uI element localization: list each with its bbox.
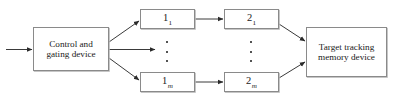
node-stage-2-channel-m: 2m	[224, 72, 279, 92]
node-stage-1-channel-1: 11	[140, 9, 195, 29]
node-control-gating-device: Control andgating device	[33, 27, 109, 71]
node-target-tracking-memory-device-label: Target trackingmemory device	[318, 42, 375, 63]
node-stage-1-channel-m-label: 1m	[162, 75, 173, 89]
connector-control-to-stage-1-channel-1	[109, 21, 139, 42]
node-stage-1-channel-1-label: 11	[163, 12, 172, 26]
ellipsis-dot	[166, 41, 168, 43]
connector-stage-2-channel-m-to-memory	[279, 62, 305, 78]
node-stage-2-channel-m-label: 2m	[246, 75, 257, 89]
node-stage-1-channel-m: 1m	[140, 72, 195, 92]
ellipsis-dot	[166, 60, 168, 62]
connector-stage-2-channel-1-to-memory	[279, 24, 305, 41]
node-stage-2-channel-1-label: 21	[247, 12, 256, 26]
ellipsis-dot	[250, 41, 252, 43]
node-stage-2-channel-1: 21	[224, 9, 279, 29]
block-diagram: Control andgating device 11 1m 21 2m Tar…	[0, 0, 395, 104]
ellipsis-dot	[250, 51, 252, 53]
ellipsis-stage-2	[247, 41, 255, 62]
ellipsis-dot	[250, 60, 252, 62]
ellipsis-dot	[166, 51, 168, 53]
ellipsis-stage-1	[163, 41, 171, 62]
connector-control-to-stage-1-channel-m	[109, 58, 139, 80]
node-control-gating-device-label: Control andgating device	[46, 39, 95, 60]
node-target-tracking-memory-device: Target trackingmemory device	[306, 27, 387, 77]
